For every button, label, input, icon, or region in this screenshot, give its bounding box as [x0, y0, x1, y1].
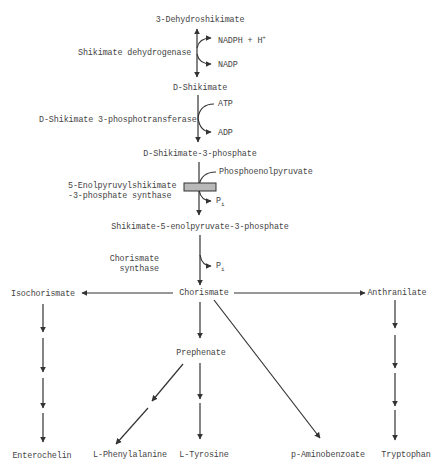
enzyme-shikimate-phosphotransferase: D-Shikimate 3-phosphotransferase	[39, 115, 197, 125]
enzyme-shikimate-dehydrogenase: Shikimate dehydrogenase	[78, 48, 191, 58]
enzyme-chorismate-synthase-line1: Chorismate	[106, 254, 159, 264]
compound-enterochelin: Enterochelin	[12, 451, 71, 461]
compound-3-dehydroshikimate: 3-Dehydroshikimate	[156, 15, 245, 25]
cofactor-adp: ADP	[218, 128, 233, 138]
arrows-layer	[0, 0, 441, 471]
cofactor-nadp: NADP	[218, 60, 238, 70]
cofactor-nadph-sup: +	[262, 34, 266, 41]
cofactor-phosphoenolpyruvate: Phosphoenolpyruvate	[219, 167, 313, 177]
compound-tryptophan: Tryptophan	[381, 450, 430, 460]
cofactor-atp: ATP	[218, 99, 233, 109]
inhibition-box	[184, 183, 216, 191]
compound-shikimate-3-phosphate: D-Shikimate-3-phosphate	[143, 149, 256, 159]
compound-chorismate: Chorismate	[179, 288, 228, 298]
shikimate-pathway-diagram: 3-Dehydroshikimate D-Shikimate D-Shikima…	[0, 0, 441, 471]
cofactor-pi-2-sub: i	[221, 266, 225, 273]
cofactor-nadph: NADPH + H+	[218, 33, 266, 46]
cofactor-nadph-text: NADPH + H	[218, 36, 262, 46]
compound-epsp: Shikimate-5-enolpyruvate-3-phosphate	[111, 222, 288, 232]
enzyme-epsp-synthase-line1: 5-Enolpyruvylshikimate	[68, 181, 146, 191]
compound-anthranilate: Anthranilate	[367, 288, 426, 298]
cofactor-pi-2: Pi	[216, 261, 224, 275]
enzyme-epsp-synthase: 5-Enolpyruvylshikimate -3-phosphate synt…	[68, 181, 146, 201]
cofactor-pi-1: Pi	[216, 196, 224, 210]
enzyme-chorismate-synthase-line2: synthase	[106, 264, 159, 274]
compound-isochorismate: Isochorismate	[11, 289, 75, 299]
compound-prephenate: Prephenate	[176, 348, 225, 358]
compound-p-aminobenzoate: p-Aminobenzoate	[291, 450, 365, 460]
enzyme-epsp-synthase-line2: -3-phosphate synthase	[68, 191, 146, 201]
compound-d-shikimate: D-Shikimate	[173, 83, 227, 93]
compound-l-tyrosine: L-Tyrosine	[179, 450, 228, 460]
compound-l-phenylalanine: L-Phenylalanine	[93, 450, 167, 460]
enzyme-chorismate-synthase: Chorismate synthase	[106, 254, 159, 274]
cofactor-pi-1-sub: i	[221, 201, 225, 208]
